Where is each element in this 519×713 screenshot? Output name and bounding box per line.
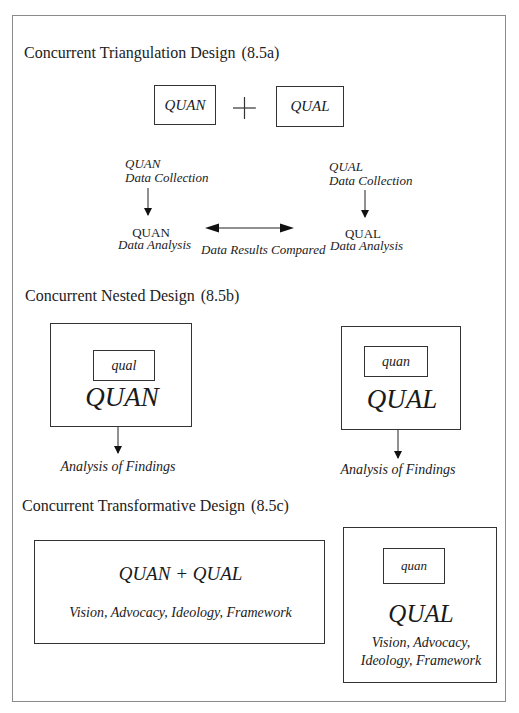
lens-label: Vision, Advocacy, Ideology, Framework [35,605,326,621]
outer-label: QUAL [342,384,462,415]
label-line: Data Analysis [330,239,396,253]
label-line: QUAL [329,160,412,174]
label-line: Data Collection [125,171,208,185]
nested-qual-inner-box: qual [93,350,155,381]
transformative-combined-box: QUAN + QUAL Vision, Advocacy, Ideology, … [34,540,325,644]
heading-title: Concurrent Transformative Design [22,497,245,514]
section-heading-transformative: Concurrent Transformative Design(8.5c) [22,497,289,515]
heading-title: Concurrent Nested Design [25,287,195,304]
analysis-of-findings-right: Analysis of Findings [318,462,478,477]
nested-qual-outer-box: quan QUAL [341,326,461,430]
quan-data-collection: QUAN Data Collection [125,157,208,186]
quan-data-analysis: QUAN Data Analysis [118,226,184,253]
qual-data-analysis: QUAL Data Analysis [330,227,396,254]
section-heading-triangulation: Concurrent Triangulation Design(8.5a) [24,44,279,62]
nested-quan-outer-box: qual QUAN [50,323,192,427]
lens-line: Vision, Advocacy, [344,634,498,652]
heading-number: (8.5b) [201,287,240,304]
inner-label: quan [382,354,410,370]
qual-data-collection: QUAL Data Collection [329,160,412,189]
quan-label: QUAN [165,97,206,114]
lens-line: Ideology, Framework [344,652,498,670]
transformative-quan-inner-box: quan [383,548,445,584]
qual-box: QUAL [276,86,344,127]
label-line: QUAN [125,157,208,171]
inner-label: qual [112,358,137,374]
quan-box: QUAN [154,85,216,125]
nested-quan-inner-box: quan [364,346,428,377]
heading-title: Concurrent Triangulation Design [24,44,236,61]
heading-number: (8.5a) [242,44,280,61]
label-line: Data Analysis [118,238,184,252]
data-results-compared: Data Results Compared [201,243,325,257]
qual-label: QUAL [290,98,329,115]
analysis-of-findings-left: Analysis of Findings [38,459,198,474]
heading-number: (8.5c) [251,497,289,514]
label-line: Data Collection [329,174,412,188]
outer-label: QUAL [344,600,498,628]
lens-label: Vision, Advocacy, Ideology, Framework [344,634,498,670]
transformative-qual-box: quan QUAL Vision, Advocacy, Ideology, Fr… [343,527,497,683]
outer-label: QUAN [51,382,193,413]
quan-plus-qual: QUAN + QUAL [35,563,326,585]
inner-label: quan [401,558,427,574]
section-heading-nested: Concurrent Nested Design(8.5b) [25,287,239,305]
